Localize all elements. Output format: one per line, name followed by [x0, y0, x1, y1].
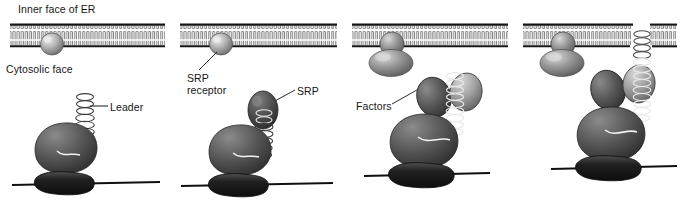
- translocon: [620, 63, 658, 106]
- ribosome-small-subunit: [575, 156, 641, 181]
- panel-4-graphic: [513, 0, 684, 216]
- er-membrane: [352, 25, 508, 47]
- er-membrane: [180, 25, 337, 47]
- er-membrane-with-pore: [523, 25, 677, 47]
- panel-4: [513, 0, 684, 216]
- ribosome-large-subunit: [209, 125, 271, 175]
- figure-canvas: Inner face of ER Cytosolic face Leader: [0, 0, 684, 216]
- er-membrane: [10, 25, 165, 47]
- srp-receptor-callout-line: [199, 52, 217, 70]
- panel-1-graphic: [0, 0, 171, 216]
- panel-3-graphic: [342, 0, 513, 216]
- panel-2-graphic: [171, 0, 342, 216]
- ribosome-large-subunit: [35, 123, 97, 173]
- ribosome-small-subunit: [388, 163, 454, 188]
- srp-receptor: [41, 33, 64, 55]
- panel-3: Factors: [342, 0, 513, 216]
- ribosome-large-subunit: [390, 114, 458, 168]
- panel-1: Inner face of ER Cytosolic face Leader: [0, 0, 171, 216]
- ribosome-small-subunit: [34, 172, 94, 195]
- ribosome-small-subunit: [208, 174, 268, 197]
- ribosome-large-subunit: [577, 107, 645, 161]
- nascent-chain-helix-translocating-upper: [633, 31, 650, 59]
- srp-receptor: [210, 33, 233, 55]
- panel-2: SRP receptor SRP: [171, 0, 342, 216]
